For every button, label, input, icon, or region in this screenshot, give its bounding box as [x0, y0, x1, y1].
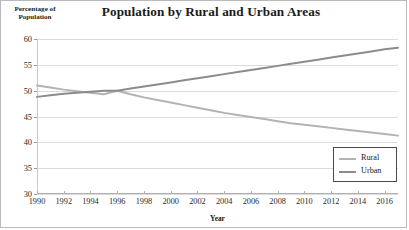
series-line-urban: [37, 48, 398, 97]
y-axis-title-line-1: Percentage of: [3, 5, 67, 13]
x-tick-mark: [171, 191, 172, 194]
x-tick-mark: [385, 191, 386, 194]
x-tick-mark: [64, 191, 65, 194]
y-tick-label: 45: [1, 112, 32, 121]
y-tick-label: 40: [1, 138, 32, 147]
x-tick-mark: [37, 191, 38, 194]
chart-container: Population by Rural and Urban Areas Perc…: [0, 0, 407, 228]
x-tick-mark: [358, 191, 359, 194]
series-line-rural: [37, 86, 398, 136]
chart-title: Population by Rural and Urban Areas: [61, 4, 361, 20]
gridline: [37, 194, 398, 195]
y-tick-label: 50: [1, 86, 32, 95]
legend-swatch-rural: [339, 158, 356, 160]
y-tick-label: 35: [1, 164, 32, 173]
x-tick-mark: [197, 191, 198, 194]
x-tick-mark: [331, 191, 332, 194]
y-axis-title-line-2: Population: [3, 13, 67, 21]
y-tick-mark: [34, 194, 37, 195]
y-tick-label: 55: [1, 60, 32, 69]
legend-item-urban[interactable]: Urban: [334, 165, 396, 178]
y-tick-label: 60: [1, 35, 32, 44]
legend-label: Rural: [361, 154, 379, 162]
x-tick-mark: [144, 191, 145, 194]
x-tick-label: 2016: [365, 197, 405, 206]
legend-swatch-urban: [339, 171, 356, 173]
x-tick-mark: [304, 191, 305, 194]
x-tick-mark: [278, 191, 279, 194]
x-tick-mark: [117, 191, 118, 194]
y-axis-title: Percentage of Population: [3, 5, 67, 22]
x-axis-title: Year: [37, 214, 398, 223]
legend-item-rural[interactable]: Rural: [334, 152, 396, 165]
chart-legend: RuralUrban: [333, 147, 397, 182]
x-tick-mark: [224, 191, 225, 194]
x-tick-mark: [90, 191, 91, 194]
legend-label: Urban: [361, 167, 381, 175]
x-tick-mark: [251, 191, 252, 194]
